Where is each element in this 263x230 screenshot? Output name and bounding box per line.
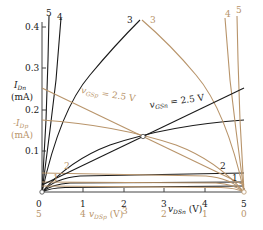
x-tick-3: 3	[161, 199, 167, 209]
x-title-p: vDSp (V)	[89, 209, 123, 222]
pmos-curves	[42, 16, 244, 192]
x-tick-5: 5	[241, 199, 247, 209]
xp-tick-2: 2	[161, 209, 167, 219]
curve-label-p2: 2	[64, 161, 70, 171]
pmos-curve-4	[225, 18, 244, 192]
x-title-n: vDSn (V)	[168, 204, 202, 217]
curve-label-n3: 3	[127, 15, 133, 25]
x-tick-4: 4	[202, 199, 208, 209]
xp-tick-1: 1	[202, 209, 208, 219]
curve-label-p1: 1	[53, 173, 59, 183]
chart-plot	[0, 0, 263, 230]
y-tick-01: 0.1	[25, 146, 39, 156]
curve-label-p4: 4	[225, 9, 231, 19]
y-unit-p: (mA)	[11, 130, 33, 140]
y-tick-04: 0.4	[25, 22, 39, 32]
xp-tick-0: 0	[241, 209, 247, 219]
x-ticks	[83, 188, 244, 192]
origin-marker	[40, 190, 44, 194]
xp-tick-5: 5	[36, 209, 42, 219]
y-unit-n: (mA)	[11, 92, 33, 102]
curve-label-p5: 5	[236, 5, 242, 15]
intersection-marker	[141, 134, 145, 138]
curve-label-n5: 5	[46, 8, 52, 18]
y-tick-02: 0.2	[25, 105, 39, 115]
x-tick-1: 1	[80, 199, 86, 209]
curve-label-p3: 3	[150, 15, 156, 25]
curve-label-n2: 2	[220, 161, 226, 171]
curve-label-n4: 4	[57, 12, 63, 22]
pmos-curve-2p5	[42, 120, 244, 192]
x-tick-0: 0	[36, 199, 42, 209]
nmos-curve-2p5	[42, 120, 244, 192]
nmos-curves	[42, 16, 244, 192]
y-tick-03: 0.3	[25, 63, 39, 73]
xp-tick-4: 4	[80, 209, 86, 219]
curve-label-n1: 1	[232, 173, 238, 183]
nmos-curve-3	[42, 20, 140, 192]
end-marker	[242, 190, 246, 194]
nmos-curve-4	[42, 18, 61, 192]
